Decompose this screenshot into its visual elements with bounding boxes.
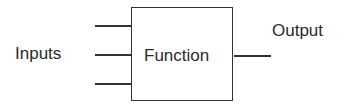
output-line [234,55,271,57]
input-line-2 [95,54,131,56]
input-line-1 [95,25,131,27]
inputs-label: Inputs [15,44,61,64]
function-label: Function [144,46,209,66]
output-label: Output [272,21,323,41]
input-line-3 [95,83,131,85]
